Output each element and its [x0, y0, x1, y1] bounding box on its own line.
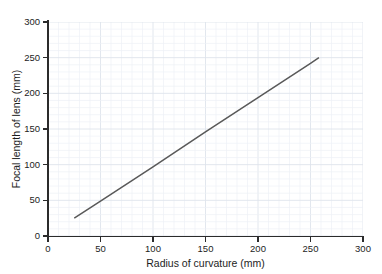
chart-figure: · · 050100150200250300050100150200250300…: [0, 0, 382, 274]
x-tick-100: [152, 237, 153, 242]
x-tick-label-50: 50: [81, 244, 121, 254]
y-tick-300: [43, 21, 48, 22]
cropped-text-artifact-label: · ·: [0, 0, 21, 1]
y-tick-150: [43, 128, 48, 129]
y-tick-100: [43, 164, 48, 165]
cropped-text-artifact: · ·: [0, 0, 382, 5]
data-series-layer: [48, 22, 363, 236]
x-tick-200: [257, 237, 258, 242]
x-tick-50: [100, 237, 101, 242]
x-axis-title: Radius of curvature (mm): [48, 257, 363, 269]
y-tick-250: [43, 57, 48, 58]
x-tick-label-100: 100: [133, 244, 173, 254]
y-axis-title-container: Focal length of lens (mm): [9, 22, 23, 236]
x-tick-0: [47, 237, 48, 242]
y-axis-title: Focal length of lens (mm): [10, 70, 22, 188]
y-tick-200: [43, 93, 48, 94]
x-tick-150: [205, 237, 206, 242]
x-tick-250: [310, 237, 311, 242]
x-tick-label-250: 250: [291, 244, 331, 254]
y-tick-50: [43, 200, 48, 201]
x-tick-label-150: 150: [186, 244, 226, 254]
x-tick-label-200: 200: [238, 244, 278, 254]
series-line-0: [74, 58, 319, 219]
plot-area: [48, 22, 363, 236]
x-tick-label-0: 0: [28, 244, 68, 254]
x-tick-300: [362, 237, 363, 242]
x-tick-label-300: 300: [343, 244, 382, 254]
